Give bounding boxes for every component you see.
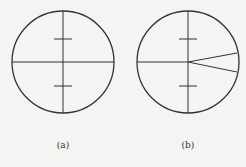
wedge-line — [188, 62, 237, 72]
figure-a-caption: (a) — [57, 140, 69, 150]
figure-a-reticle — [12, 11, 114, 113]
figure-b-reticle-with-wedge — [137, 11, 239, 113]
wedge-line — [188, 53, 237, 62]
figure-b-caption: (b) — [182, 140, 195, 150]
diagram-canvas — [0, 0, 246, 167]
